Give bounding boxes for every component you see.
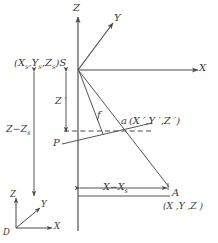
station-point-label: (Xs,Ys,Zs)S	[14, 58, 66, 71]
image-point-coords: (X ′,Y ′,Z ′)	[129, 115, 180, 126]
triad-label-z: Z	[10, 190, 16, 199]
measure-label-z-prime: Z ′	[55, 96, 67, 106]
triad-axis-y	[16, 208, 40, 228]
triad-origin-label: D	[3, 228, 10, 237]
measure-label-z-minus-zs: Z−Zs	[6, 124, 30, 136]
axis-label-z-main: Z	[73, 3, 80, 13]
focal-length-label: f	[97, 110, 101, 120]
triad-label-y: Y	[41, 200, 47, 209]
ray-s-to-a	[79, 71, 169, 187]
image-point-name: a	[121, 115, 127, 126]
station-sub-y: s	[38, 63, 42, 71]
image-point-label: a(X ′,Y ′,Z ′)	[121, 116, 180, 126]
ground-point-label: A	[172, 188, 179, 198]
axis-label-y-main: Y	[114, 13, 121, 23]
triad-label-x: X	[54, 222, 60, 231]
station-sub-z: s	[52, 63, 56, 71]
x-minus-xs-sub: s	[125, 187, 128, 195]
measure-label-x-minus-xs: X−Xs	[103, 182, 128, 194]
ray-s-to-p	[79, 71, 103, 134]
image-plane-line	[62, 123, 152, 144]
axis-label-x-main: X	[199, 63, 206, 73]
ground-point-coords: (X ,Y ,Z )	[163, 202, 203, 211]
z-minus-zs-sub: s	[27, 129, 30, 137]
axis-y-main	[78, 23, 113, 70]
station-name: S	[59, 57, 66, 68]
principal-point-label: P	[53, 138, 60, 148]
station-sub-x: s	[25, 63, 29, 71]
